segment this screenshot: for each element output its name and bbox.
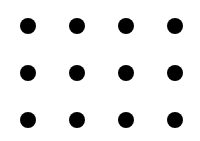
- dot-r2-c3: [118, 65, 134, 81]
- dot-r1-c2: [69, 18, 85, 34]
- dot-r2-c1: [20, 65, 36, 81]
- dot-r3-c4: [167, 112, 183, 128]
- dot-r2-c2: [69, 65, 85, 81]
- dot-r1-c3: [118, 18, 134, 34]
- dot-r3-c2: [69, 112, 85, 128]
- dot-r1-c4: [167, 18, 183, 34]
- dot-r1-c1: [20, 18, 36, 34]
- dot-r3-c1: [20, 112, 36, 128]
- dot-r2-c4: [167, 65, 183, 81]
- dot-r3-c3: [118, 112, 134, 128]
